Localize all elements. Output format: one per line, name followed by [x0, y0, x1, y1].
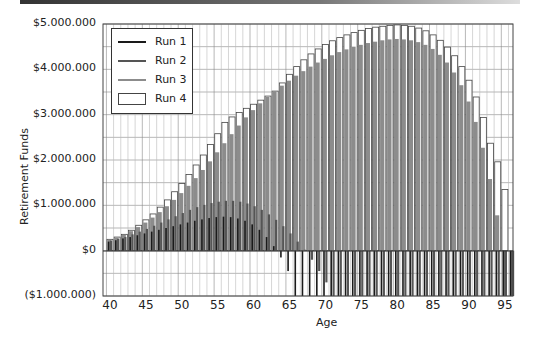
bar-run-2: [153, 226, 155, 251]
y-axis-title: Retirement Funds: [18, 127, 31, 227]
bar-run-2: [340, 251, 342, 296]
bar-run-2: [117, 239, 119, 251]
bar-run-2: [469, 251, 471, 296]
bar-run-1: [259, 230, 261, 251]
bar-run-2: [361, 251, 363, 296]
bar-run-1: [345, 251, 347, 296]
bar-run-1: [323, 251, 325, 296]
bar-run-1: [158, 230, 160, 251]
bar-run-1: [338, 251, 340, 296]
bar-run-3: [380, 40, 384, 250]
bar-run-3: [438, 55, 442, 251]
bar-run-2: [203, 205, 205, 251]
box-swatch-icon: [118, 93, 146, 105]
bar-run-3: [473, 122, 477, 251]
bar-run-3: [423, 45, 427, 251]
bar-run-2: [131, 234, 133, 250]
bar-run-1: [194, 221, 196, 251]
y-tick-label: $0: [82, 243, 96, 256]
bar-run-1: [359, 251, 361, 296]
legend-item-run-1: Run 1: [118, 35, 192, 49]
bar-run-2: [210, 203, 212, 251]
bar-run-3: [330, 55, 334, 250]
y-tick-label: ($1.000.000): [24, 288, 96, 301]
bar-run-1: [496, 251, 498, 296]
bar-run-2: [505, 251, 507, 296]
bar-run-3: [287, 81, 291, 251]
bar-run-2: [411, 251, 413, 296]
line-swatch-icon: [118, 41, 146, 43]
x-tick-label: 90: [461, 298, 476, 312]
x-tick-label: 95: [497, 298, 512, 312]
bar-run-1: [122, 238, 124, 250]
bar-run-2: [268, 214, 270, 250]
legend-label: Run 4: [155, 92, 187, 105]
y-tick-label: $5.000.000: [33, 16, 96, 29]
legend-item-run-4: Run 4: [118, 92, 192, 106]
bar-run-2: [419, 251, 421, 296]
bar-run-2: [218, 202, 220, 251]
bar-run-3: [402, 39, 406, 250]
bar-run-3: [416, 42, 420, 251]
bar-run-3: [366, 43, 370, 251]
bar-run-2: [189, 210, 191, 251]
bar-run-3: [445, 63, 449, 251]
bar-run-1: [474, 251, 476, 296]
bar-run-1: [144, 233, 146, 250]
bar-run-1: [309, 251, 311, 296]
bar-run-1: [373, 251, 375, 296]
bar-run-1: [223, 217, 225, 251]
x-tick-label: 55: [210, 298, 225, 312]
bar-run-3: [294, 76, 298, 251]
bar-run-1: [488, 251, 490, 296]
bar-run-1: [251, 224, 253, 250]
bar-run-2: [167, 219, 169, 250]
x-tick-label: 65: [282, 298, 297, 312]
bar-run-2: [376, 251, 378, 296]
bar-run-1: [180, 224, 182, 250]
bar-run-1: [409, 251, 411, 296]
bar-run-2: [289, 233, 291, 250]
bar-run-2: [160, 223, 162, 251]
bar-run-2: [225, 201, 227, 251]
bar-run-1: [115, 240, 117, 250]
y-tick-label: $1.000.000: [33, 197, 96, 210]
bar-run-1: [244, 221, 246, 251]
bar-run-2: [254, 206, 256, 250]
bar-run-3: [488, 179, 492, 251]
x-axis-title: Age: [316, 316, 337, 329]
bar-run-2: [354, 251, 356, 296]
bar-run-2: [196, 207, 198, 251]
bar-run-1: [237, 218, 239, 250]
y-tick-label: $4.000.000: [33, 61, 96, 74]
x-tick-label: 85: [425, 298, 440, 312]
x-tick-label: 75: [354, 298, 369, 312]
bar-run-2: [239, 202, 241, 251]
bar-run-3: [373, 42, 377, 251]
bar-run-1: [366, 251, 368, 296]
bar-run-1: [467, 251, 469, 296]
bar-run-2: [447, 251, 449, 296]
line-swatch-icon: [118, 60, 146, 62]
bar-run-1: [402, 251, 404, 296]
bar-run-1: [503, 251, 505, 296]
bar-run-3: [316, 63, 320, 251]
bar-run-1: [431, 251, 433, 296]
bar-run-4: [502, 189, 508, 250]
bar-run-2: [232, 201, 234, 251]
bar-run-2: [383, 251, 385, 296]
bar-run-3: [344, 49, 348, 250]
bar-run-1: [510, 251, 512, 296]
bar-run-2: [476, 251, 478, 296]
x-tick-label: 45: [138, 298, 153, 312]
y-tick-label: $3.000.000: [33, 107, 96, 120]
bar-run-1: [151, 232, 153, 251]
bar-run-2: [483, 251, 485, 296]
bar-run-2: [311, 251, 313, 260]
bar-run-1: [172, 226, 174, 250]
x-tick-label: 40: [102, 298, 117, 312]
bar-run-1: [330, 251, 332, 296]
bar-run-1: [381, 251, 383, 296]
bar-run-1: [201, 219, 203, 250]
bar-run-2: [139, 232, 141, 251]
